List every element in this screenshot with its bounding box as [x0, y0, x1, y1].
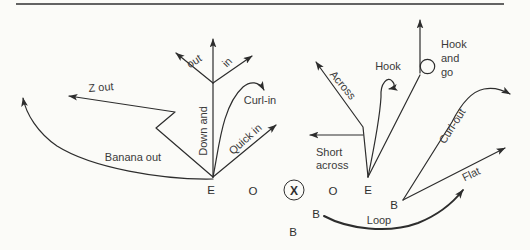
- route-label-hook: Hook: [375, 60, 401, 72]
- short-across-line-2: across: [316, 159, 348, 172]
- flat-arrow: [403, 148, 505, 200]
- hook-and-go-line-2: and: [441, 51, 467, 65]
- route-label-banana-out: Banana out: [105, 151, 161, 163]
- route-label-down-and: Down and: [197, 106, 209, 156]
- hook-and-go-line-3: go: [441, 65, 467, 79]
- z-out-arrow: [69, 96, 213, 177]
- hook-and-go-line-1: Hook: [441, 37, 467, 51]
- player-back-right: B: [390, 199, 398, 211]
- route-diagram: Z out Banana out Down and out in Curl-in…: [0, 0, 530, 250]
- route-label-curl-in: Curl-in: [244, 94, 276, 106]
- player-center-circled-x: X: [284, 180, 305, 201]
- short-across-line-1: Short: [316, 146, 348, 159]
- curl-out-arrow: [403, 88, 510, 200]
- hook-and-go-loop: [420, 59, 434, 73]
- player-left-end: E: [207, 184, 215, 196]
- route-label-loop: Loop: [367, 214, 391, 226]
- player-back-left: B: [289, 226, 297, 238]
- player-back-middle: B: [312, 208, 320, 220]
- hook-and-go-run: [368, 75, 420, 177]
- route-label-hook-and-go: Hook and go: [441, 37, 467, 79]
- player-right-end: E: [364, 184, 372, 196]
- route-label-short-across: Short across: [316, 146, 348, 172]
- player-left-lineman: O: [249, 185, 258, 197]
- player-right-lineman: O: [329, 185, 338, 197]
- route-label-z-out: Z out: [88, 80, 114, 94]
- banana-out-arrow: [23, 98, 213, 179]
- hook-arrow: [368, 79, 394, 177]
